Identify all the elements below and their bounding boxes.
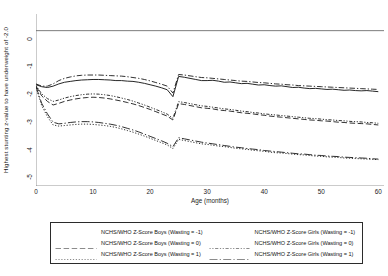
y-tick-label: -1 (26, 58, 34, 74)
series-line (36, 86, 378, 125)
y-tick-label: -4 (26, 142, 34, 158)
legend-line-swatch (55, 239, 97, 247)
legend-label: NCHS/WHO Z-Score Girls (Wasting = 1) (255, 251, 354, 257)
legend-item[interactable]: NCHS/WHO Z-Score Girls (Wasting = 1) (209, 249, 359, 260)
chart-figure: Highest stunting z-value to have underwe… (0, 0, 388, 276)
series-line (36, 74, 378, 93)
y-tick-label: 0 (26, 31, 34, 47)
x-tick-label: 0 (34, 188, 38, 195)
legend-label: NCHS/WHO Z-Score Girls (Wasting = 0) (255, 240, 354, 246)
x-tick-label: 20 (147, 188, 154, 195)
x-tick-label: 10 (89, 188, 96, 195)
legend-item[interactable]: NCHS/WHO Z-Score Girls (Wasting = -1) (209, 226, 359, 237)
y-axis-title: Highest stunting z-value to have underwe… (2, 14, 14, 186)
legend-item[interactable]: NCHS/WHO Z-Score Boys (Wasting = 1) (55, 249, 205, 260)
x-tick-label: 60 (375, 188, 382, 195)
y-tick-label: -2 (26, 86, 34, 102)
legend-line-swatch (209, 239, 251, 247)
y-axis-title-container: Highest stunting z-value to have underwe… (2, 14, 14, 186)
legend-label: NCHS/WHO Z-Score Boys (Wasting = 1) (101, 251, 201, 257)
y-axis-tick-labels: 0-1-2-3-4-5 (14, 14, 30, 186)
legend-label: NCHS/WHO Z-Score Boys (Wasting = -1) (101, 229, 203, 235)
x-axis-title: Age (months) (36, 197, 384, 204)
y-tick-label: -5 (26, 169, 34, 185)
legend-label: NCHS/WHO Z-Score Girls (Wasting = -1) (255, 229, 356, 235)
plot-area (36, 14, 384, 186)
legend-item[interactable]: NCHS/WHO Z-Score Boys (Wasting = 0) (55, 237, 205, 248)
legend-line-swatch (209, 250, 251, 258)
series-line (36, 88, 378, 160)
legend-item[interactable]: NCHS/WHO Z-Score Boys (Wasting = -1) (55, 226, 205, 237)
x-tick-label: 40 (261, 188, 268, 195)
data-series-group (36, 74, 378, 159)
x-tick-label: 50 (318, 188, 325, 195)
legend-line-swatch (209, 228, 251, 236)
legend-line-swatch (55, 250, 97, 258)
series-line (36, 76, 378, 96)
legend-label: NCHS/WHO Z-Score Boys (Wasting = 0) (101, 240, 201, 246)
chart-canvas (36, 14, 384, 186)
legend-line-swatch (55, 228, 97, 236)
legend-grid: NCHS/WHO Z-Score Boys (Wasting = -1)NCHS… (51, 223, 362, 263)
axis-lines (36, 14, 384, 186)
legend-item[interactable]: NCHS/WHO Z-Score Girls (Wasting = 0) (209, 237, 359, 248)
legend: NCHS/WHO Z-Score Boys (Wasting = -1)NCHS… (50, 222, 363, 264)
series-line (36, 86, 378, 124)
y-tick-label: -3 (26, 114, 34, 130)
x-tick-label: 30 (204, 188, 211, 195)
